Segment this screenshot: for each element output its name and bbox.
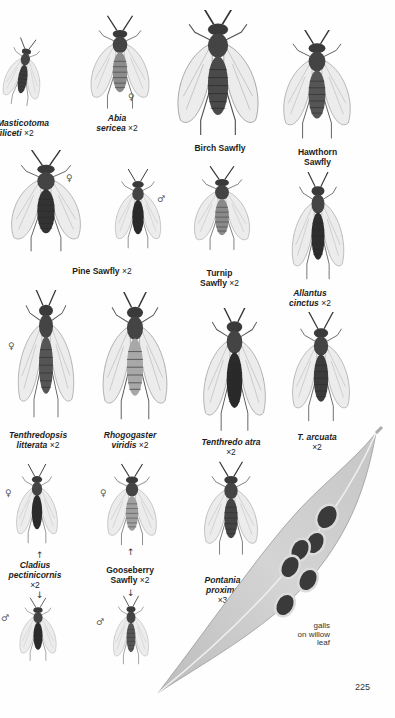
arrow-up: ↑ — [36, 550, 44, 560]
male-symbol: ♂ — [157, 194, 165, 204]
pine-sawfly-female-illustration — [0, 150, 92, 255]
label-hawthorn-sawfly: Hawthorn Sawfly — [290, 147, 345, 167]
female-symbol: ♀ — [100, 488, 107, 498]
male-symbol: ♂ — [1, 613, 9, 623]
galls-annotation: galls on willow leaf — [290, 622, 330, 648]
label-pine-sawfly: Pine Sawfly ×2 — [62, 266, 142, 276]
tenthredo-atra-illustration — [192, 308, 277, 433]
label-tenthredopsis: Tenthredopsis litterata ×2 — [8, 430, 68, 450]
abia-sericea-illustration — [72, 14, 168, 114]
hawthorn-sawfly-illustration — [272, 30, 362, 140]
rhogogaster-viridis-illustration — [90, 292, 180, 422]
pine-sawfly-male-illustration — [103, 165, 173, 255]
masticotoma-illustration — [0, 30, 58, 115]
label-masticotoma: Masticotoma filiceti ×2 — [0, 118, 41, 138]
cladius-male-illustration — [8, 590, 68, 670]
label-turnip-sawfly: Turnip Sawfly ×2 — [192, 268, 247, 288]
female-symbol: ♀ — [8, 341, 15, 351]
turnip-sawfly-illustration — [182, 162, 262, 257]
male-symbol: ♂ — [96, 617, 104, 627]
field-guide-page: Masticotoma filiceti ×2 ♀ Abia sericea ×… — [0, 0, 395, 718]
tenthredopsis-illustration — [6, 290, 86, 420]
female-symbol: ♀ — [128, 92, 135, 102]
label-birch-sawfly: Birch Sawfly — [185, 143, 255, 153]
allantus-cinctus-illustration — [274, 172, 362, 282]
willow-leaf-illustration — [150, 425, 385, 705]
cladius-female-illustration — [6, 460, 68, 550]
label-allantus-cinctus: Allantus cinctus ×2 — [285, 288, 335, 308]
label-cladius-pectinicornis: Cladius pectinicornis ×2 — [7, 560, 63, 590]
female-symbol: ♀ — [5, 488, 12, 498]
arrow-up: ↑ — [127, 547, 135, 557]
t-arcuata-illustration — [280, 312, 362, 427]
label-abia-sericea: Abia sericea ×2 — [92, 113, 142, 133]
female-symbol: ♀ — [66, 173, 73, 183]
page-number: 225 — [355, 682, 370, 692]
birch-sawfly-illustration — [168, 10, 268, 135]
